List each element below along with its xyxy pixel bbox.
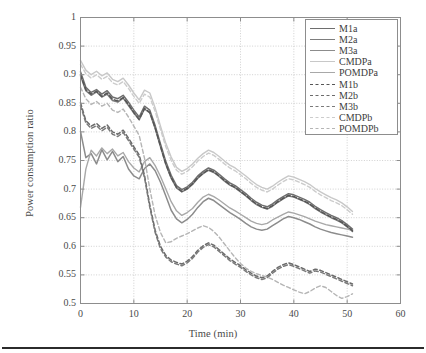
legend-item-label: POMDPb	[339, 123, 378, 134]
legend-item-label: CMDPb	[339, 112, 372, 123]
x-tick-label: 40	[274, 308, 314, 319]
legend-line-swatch-icon	[310, 79, 335, 90]
x-tick-label: 0	[61, 308, 101, 319]
x-tick-label: 60	[381, 308, 421, 319]
y-tick-label: 0.65	[40, 211, 76, 222]
legend-item-m2a[interactable]: M2a	[306, 34, 397, 45]
y-tick-label: 0.7	[40, 183, 76, 194]
legend-item-pomdpa[interactable]: POMDPa	[306, 67, 397, 78]
legend-line-swatch-icon	[310, 56, 335, 67]
legend-item-m1a[interactable]: M1a	[306, 23, 397, 34]
legend-line-swatch-icon	[310, 101, 335, 112]
legend-item-label: M3a	[339, 45, 357, 56]
legend-item-label: CMDPa	[339, 56, 372, 67]
x-tick-label: 20	[167, 308, 207, 319]
y-axis-title: Power consumption ratio	[24, 109, 35, 217]
y-tick-label: 0.8	[40, 125, 76, 136]
y-tick-label: 0.5	[40, 297, 76, 308]
x-tick-label: 50	[327, 308, 367, 319]
series-line-m3a	[81, 131, 353, 237]
y-tick-label: 0.9	[40, 68, 76, 79]
x-axis-title: Time (min)	[0, 328, 426, 339]
x-tick-label: 10	[114, 308, 154, 319]
legend-item-label: POMDPa	[339, 67, 378, 78]
x-tick-label: 30	[221, 308, 261, 319]
legend-line-swatch-icon	[310, 90, 335, 101]
legend-item-label: M3b	[339, 101, 358, 112]
legend-item-label: M1b	[339, 79, 358, 90]
y-axis-title-wrap: Power consumption ratio	[19, 53, 37, 273]
bottom-divider-rule	[2, 347, 424, 349]
legend-item-label: M2a	[339, 34, 357, 45]
y-tick-label: 0.85	[40, 97, 76, 108]
legend-item-cmdpa[interactable]: CMDPa	[306, 56, 397, 67]
y-tick-label: 0.75	[40, 154, 76, 165]
legend-item-m3a[interactable]: M3a	[306, 45, 397, 56]
legend-item-pomdpb[interactable]: POMDPb	[306, 123, 397, 134]
y-tick-label: 0.6	[40, 240, 76, 251]
legend-item-label: M1a	[339, 23, 357, 34]
y-tick-label: 1	[40, 11, 76, 22]
figure-container: 0.50.550.60.650.70.750.80.850.90.951 010…	[0, 0, 426, 353]
legend-line-swatch-icon	[310, 23, 335, 34]
legend-line-swatch-icon	[310, 67, 335, 78]
legend-line-swatch-icon	[310, 45, 335, 56]
legend-item-label: M2b	[339, 90, 358, 101]
y-tick-label: 0.55	[40, 268, 76, 279]
legend-item-m1b[interactable]: M1b	[306, 78, 397, 89]
legend-line-swatch-icon	[310, 112, 335, 123]
legend-item-m2b[interactable]: M2b	[306, 90, 397, 101]
legend-item-cmdpb[interactable]: CMDPb	[306, 112, 397, 123]
chart-legend: M1aM2aM3aCMDPaPOMDPaM1bM2bM3bCMDPbPOMDPb	[305, 19, 398, 135]
legend-line-swatch-icon	[310, 34, 335, 45]
legend-item-m3b[interactable]: M3b	[306, 101, 397, 112]
y-tick-label: 0.95	[40, 40, 76, 51]
legend-line-swatch-icon	[310, 123, 335, 134]
